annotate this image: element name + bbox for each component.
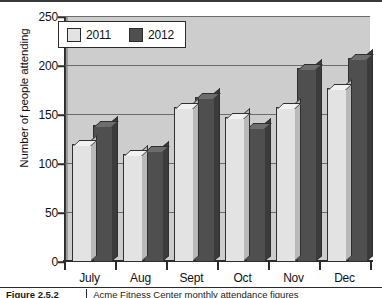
x-tick-mark-1 bbox=[115, 262, 117, 270]
x-tick-mark-3 bbox=[217, 262, 219, 270]
y-tick-label-150: 150 bbox=[22, 108, 58, 122]
bar-2011-july bbox=[72, 144, 92, 262]
bar-2011-nov bbox=[276, 107, 296, 262]
y-axis-ticks: 050100150200250 bbox=[20, 0, 58, 297]
bar-side-face bbox=[193, 98, 199, 261]
figure-caption-inner: Figure 2.5.2 Acme Fitness Center monthly… bbox=[0, 289, 382, 298]
y-tick-label-50: 50 bbox=[22, 206, 58, 220]
bar-side-face bbox=[265, 118, 271, 261]
figure-caption-divider bbox=[86, 289, 87, 298]
x-tick-mark-2 bbox=[166, 262, 168, 270]
figure-caption: Figure 2.5.2 Acme Fitness Center monthly… bbox=[0, 287, 382, 298]
bar-2011-dec bbox=[327, 88, 347, 262]
bar-2011-sept bbox=[174, 107, 194, 262]
bar-group-aug bbox=[123, 17, 164, 262]
y-tick-label-250: 250 bbox=[22, 10, 58, 24]
x-axis-label-sept: Sept bbox=[180, 271, 204, 285]
legend-swatch-2012 bbox=[129, 28, 143, 42]
x-axis-label-nov: Nov bbox=[283, 271, 304, 285]
x-axis-label-aug: Aug bbox=[130, 271, 151, 285]
x-axis-label-oct: Oct bbox=[233, 271, 251, 285]
x-tick-mark-6 bbox=[370, 262, 372, 270]
bar-group-oct bbox=[225, 17, 266, 262]
bar-side-face bbox=[295, 98, 301, 261]
y-tick-label-100: 100 bbox=[22, 157, 58, 171]
x-tick-mark-0 bbox=[64, 262, 66, 270]
x-tick-mark-5 bbox=[319, 262, 321, 270]
bar-2011-oct bbox=[225, 117, 245, 262]
legend-swatch-2011 bbox=[67, 28, 81, 42]
bar-side-face bbox=[367, 49, 373, 261]
bar-side-face bbox=[214, 88, 220, 261]
x-tick-mark-4 bbox=[268, 262, 270, 270]
y-tick-label-200: 200 bbox=[22, 59, 58, 73]
y-axis-line bbox=[65, 17, 68, 262]
legend-entry-2012: 2012 bbox=[129, 28, 174, 42]
bar-group-sept bbox=[174, 17, 215, 262]
bar-group-july bbox=[72, 17, 113, 262]
figure-caption-label: Figure 2.5.2 bbox=[0, 289, 86, 298]
legend-entry-2011: 2011 bbox=[67, 28, 111, 42]
bar-group-nov bbox=[276, 17, 317, 262]
bar-2011-aug bbox=[123, 154, 143, 262]
legend-label-2011: 2011 bbox=[86, 28, 111, 42]
bar-group-dec bbox=[327, 17, 368, 262]
bar-side-face bbox=[112, 116, 118, 261]
x-axis: JulyAugSeptOctNovDec bbox=[62, 262, 372, 282]
bar-side-face bbox=[142, 145, 148, 261]
bar-side-face bbox=[346, 79, 352, 261]
x-axis-label-july: July bbox=[79, 271, 100, 285]
bar-side-face bbox=[163, 141, 169, 261]
bar-side-face bbox=[316, 59, 322, 261]
plot-area bbox=[64, 17, 370, 262]
legend-label-2012: 2012 bbox=[148, 28, 174, 42]
bar-side-face bbox=[91, 135, 97, 261]
bar-side-face bbox=[244, 108, 250, 261]
chart-legend: 2011 2012 bbox=[58, 21, 186, 48]
figure-caption-text: Acme Fitness Center monthly attendance f… bbox=[93, 289, 298, 298]
x-axis-label-dec: Dec bbox=[334, 271, 355, 285]
y-tick-label-0: 0 bbox=[22, 255, 58, 269]
